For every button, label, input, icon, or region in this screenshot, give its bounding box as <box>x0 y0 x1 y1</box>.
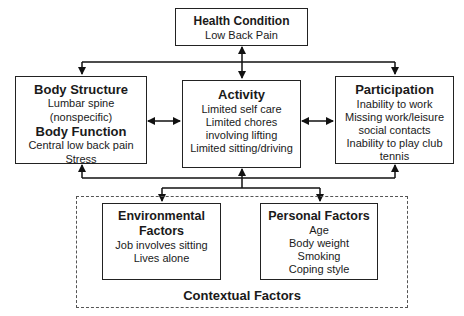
environmental-line: Job involves sitting <box>103 239 220 252</box>
activity-line: Limited chores <box>183 116 300 129</box>
participation-line: tennis <box>336 150 453 163</box>
contextual-factors-label: Contextual Factors <box>77 288 407 303</box>
personal-line: Smoking <box>261 250 377 263</box>
body-structure-line: (nonspecific) <box>16 111 146 125</box>
personal-line: Body weight <box>261 237 377 250</box>
activity-box: Activity Limited self care Limited chore… <box>182 80 301 168</box>
personal-title: Personal Factors <box>261 209 377 224</box>
health-condition-box: Health Condition Low Back Pain <box>175 8 308 46</box>
personal-line: Coping style <box>261 263 377 276</box>
activity-line: Limited sitting/driving <box>183 142 300 155</box>
environmental-line: Lives alone <box>103 252 220 265</box>
personal-line: Age <box>261 224 377 237</box>
participation-title: Participation <box>336 82 453 98</box>
environmental-title: Environmental <box>103 209 220 224</box>
body-structure-function-box: Body Structure Lumbar spine (nonspecific… <box>15 76 147 164</box>
personal-factors-box: Personal Factors Age Body weight Smoking… <box>260 203 378 280</box>
environmental-title: Factors <box>103 224 220 239</box>
participation-line: social contacts <box>336 124 453 137</box>
body-structure-title: Body Structure <box>16 82 146 97</box>
body-function-line: Central low back pain <box>16 139 146 153</box>
body-structure-line: Lumbar spine <box>16 97 146 111</box>
environmental-factors-box: Environmental Factors Job involves sitti… <box>102 203 221 280</box>
body-function-title: Body Function <box>16 124 146 139</box>
health-condition-title: Health Condition <box>176 14 307 28</box>
participation-line: Inability to work <box>336 98 453 111</box>
participation-box: Participation Inability to work Missing … <box>335 76 454 164</box>
body-function-line: Stress <box>16 153 146 167</box>
activity-title: Activity <box>183 87 300 103</box>
activity-line: Limited self care <box>183 103 300 116</box>
participation-line: Missing work/leisure <box>336 111 453 124</box>
health-condition-line: Low Back Pain <box>176 28 307 42</box>
participation-line: Inability to play club <box>336 137 453 150</box>
activity-line: involving lifting <box>183 129 300 142</box>
